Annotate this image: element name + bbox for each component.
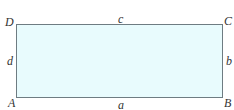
- side-label-b: b: [226, 55, 232, 67]
- vertex-label-b: B: [224, 97, 231, 109]
- vertex-label-d: D: [5, 16, 14, 28]
- side-label-c: c: [118, 13, 123, 25]
- side-label-a: a: [118, 99, 124, 110]
- vertex-label-c: C: [224, 15, 232, 27]
- vertex-label-a: A: [8, 97, 15, 109]
- rectangle-abcd: [16, 24, 223, 98]
- side-label-d: d: [7, 55, 13, 67]
